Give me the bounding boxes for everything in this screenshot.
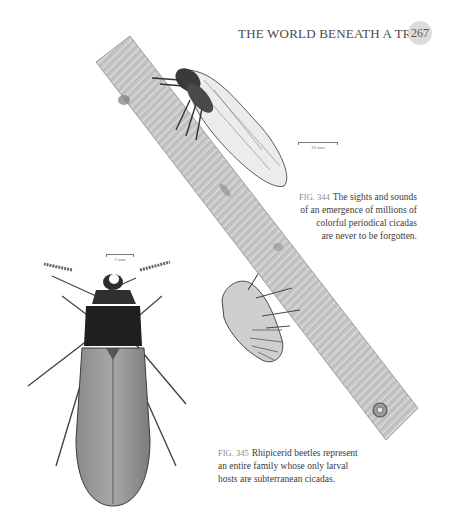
scale-bar-2mm: 2 mm: [106, 254, 134, 262]
caption-line: FIG. 344The sights and sounds: [277, 191, 417, 204]
illustration-canvas: [0, 0, 452, 521]
caption-line: FIG. 345Rhipicerid beetles represent: [218, 447, 398, 460]
scale-bar-10mm: 10 mm: [298, 142, 338, 150]
scale-bar-label: 2 mm: [106, 257, 134, 262]
figure-label: FIG. 345: [218, 448, 249, 458]
figure-344-caption: FIG. 344The sights and sounds of an emer…: [277, 191, 417, 243]
caption-line: colorful periodical cicadas: [277, 217, 417, 230]
caption-line: hosts are subterranean cicadas.: [218, 473, 398, 486]
figure-label: FIG. 344: [299, 192, 330, 202]
rhipicerid-beetle-illustration: [28, 262, 186, 506]
figure-345-caption: FIG. 345Rhipicerid beetles represent an …: [218, 447, 398, 486]
branch-knot: [373, 403, 387, 417]
scale-bar-label: 10 mm: [298, 145, 338, 150]
caption-line: an entire family whose only larval: [218, 460, 398, 473]
caption-line: of an emergence of millions of: [277, 204, 417, 217]
caption-line: are never to be forgotten.: [277, 230, 417, 243]
